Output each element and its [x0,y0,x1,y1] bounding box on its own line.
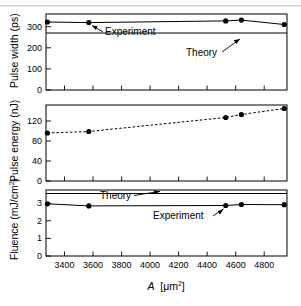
data-point [239,112,244,117]
panel-mid-xticks [65,177,265,182]
multi-panel-plot: 0 100 200 300 Experiment Theory Pulse wi… [0,0,301,306]
panel-bot-ylabel: Fluence (mJ/cm2) [8,178,20,260]
panel-top-xticks [65,86,265,91]
figure-container: 0 100 200 300 Experiment Theory Pulse wi… [0,0,301,306]
panel-mid-ytick-80: 80 [32,136,42,146]
data-point [223,18,228,23]
panel-pulse-energy: 0 40 80 120 Pulse energy (nJ) [8,100,287,186]
xtick-3400: 3400 [54,260,74,270]
panel-mid-frame [46,105,287,181]
panel-mid-yticks [46,121,51,181]
data-point [239,18,244,23]
panel-mid-ylabel: Pulse energy (nJ) [8,100,20,182]
panel-mid-experiment-line [47,109,284,134]
data-point [45,130,50,135]
panel-bot-xticks [65,252,265,257]
panel-top-experiment-line [47,20,284,24]
panel-mid-experiment-markers [45,106,287,136]
panel-bot-experiment-label: Experiment [153,210,204,221]
panel-bot-frame [46,190,287,256]
xtick-4800: 4800 [254,260,274,270]
panel-mid-ytick-40: 40 [32,156,42,166]
panel-top-ytick-0: 0 [37,85,42,95]
panel-top-frame [46,14,287,90]
data-point [282,202,287,207]
panel-pulse-width: 0 100 200 300 Experiment Theory Pulse wi… [8,13,287,95]
data-point [282,106,287,111]
panel-bot-ytick-1: 1 [37,233,42,243]
panel-top-ytick-200: 200 [27,43,42,53]
panel-bot-experiment-arrowhead [218,209,224,215]
panel-bot-theory-label: Theory [100,190,131,201]
panel-bot-yticks [46,203,51,256]
data-point [282,22,287,27]
panel-top-experiment-arrowhead [92,26,98,31]
panel-top-ytick-300: 300 [27,22,42,32]
panel-top-yticks [46,27,51,90]
panel-fluence: 0 1 2 3 Theory Experiment Fluence (mJ/cm… [8,178,287,292]
panel-top-ytick-100: 100 [27,64,42,74]
data-point [223,115,228,120]
xtick-3800: 3800 [112,260,132,270]
panel-top-theory-label: Theory [186,47,217,58]
data-point [45,19,50,24]
panel-bot-experiment-line [47,204,284,206]
panel-bot-ytick-2: 2 [37,216,42,226]
data-point [45,201,50,206]
data-point [223,203,228,208]
data-point [86,20,91,25]
panel-mid-ytick-120: 120 [27,116,42,126]
panel-top-ylabel: Pulse width (ps) [8,13,20,88]
xtick-4400: 4400 [197,260,217,270]
xtick-4000: 4000 [140,260,160,270]
panel-top-experiment-label: Experiment [105,26,156,37]
xtick-4600: 4600 [226,260,246,270]
panel-bot-ytick-3: 3 [37,198,42,208]
xaxis-label: A [μm2] [146,280,184,292]
panel-mid-ytick-0: 0 [37,176,42,186]
panel-bot-ytick-0: 0 [37,251,42,261]
data-point [239,202,244,207]
xtick-3600: 3600 [83,260,103,270]
xtick-4200: 4200 [169,260,189,270]
data-point [86,129,91,134]
data-point [86,203,91,208]
